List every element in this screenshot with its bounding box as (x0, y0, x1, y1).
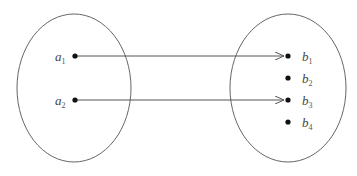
label-b2: b2 (302, 71, 313, 88)
label-b1: b1 (302, 49, 313, 66)
mapping-diagram: a1 a2 b1 b2 b3 b4 (0, 0, 357, 176)
label-a1: a1 (55, 49, 66, 66)
point-b2 (285, 75, 290, 80)
point-b4 (285, 119, 290, 124)
label-a2: a2 (55, 93, 66, 110)
codomain-set-ellipse (230, 14, 346, 162)
domain-set-ellipse (17, 14, 131, 162)
point-b1 (285, 53, 290, 58)
point-a2 (72, 97, 77, 102)
label-b3: b3 (302, 93, 313, 110)
point-b3 (285, 97, 290, 102)
point-a1 (72, 53, 77, 58)
label-b4: b4 (302, 115, 313, 132)
